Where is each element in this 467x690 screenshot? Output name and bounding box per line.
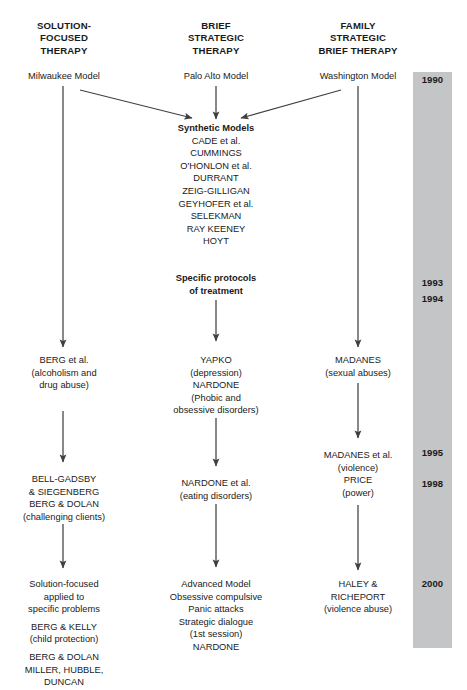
- node-solution-focused-applied: Solution-focused applied to specific pro…: [0, 578, 128, 689]
- madanes-line-0: MADANES: [335, 355, 381, 365]
- node-advanced-model: Advanced Model Obsessive compulsive Pani…: [136, 578, 296, 654]
- yapko-line-1: (depression): [190, 368, 242, 378]
- solutionapplied-g3-line-2: DUNCAN: [44, 677, 84, 687]
- header-line-2: FOCUSED: [40, 32, 88, 43]
- advanced-line-2: Panic attacks: [188, 604, 243, 614]
- arrow-milwaukee-to-synthetic: [80, 90, 192, 118]
- madanesprice-line-1: (violence): [338, 463, 378, 473]
- node-washington-model: Washington Model: [296, 70, 420, 83]
- berg-line-0: BERG et al.: [39, 355, 88, 365]
- spacer-2: [0, 646, 128, 651]
- bellgadsby-line-2: BERG & DOLAN: [29, 499, 99, 509]
- madanesprice-line-2: PRICE: [344, 475, 372, 485]
- column-header-solution-focused: SOLUTION- FOCUSED THERAPY: [0, 20, 128, 57]
- advanced-line-3: Strategic dialogue: [179, 617, 253, 627]
- node-nardone-eating-disorders: NARDONE et al. (eating disorders): [142, 477, 290, 502]
- solutionapplied-g1-line-0: Solution-focused: [29, 579, 98, 589]
- node-madanes-price: MADANES et al. (violence) PRICE (power): [294, 449, 422, 499]
- yapko-line-4: obsessive disorders): [173, 405, 258, 415]
- solutionapplied-g1-line-2: specific problems: [28, 604, 100, 614]
- bellgadsby-line-0: BELL-GADSBY: [32, 474, 97, 484]
- node-milwaukee-model: Milwaukee Model: [3, 70, 125, 83]
- nardone-eating-line-0: NARDONE et al.: [181, 478, 250, 488]
- yapko-line-3: (Phobic and: [191, 393, 241, 403]
- yapko-line-0: YAPKO: [200, 355, 231, 365]
- column-header-brief-strategic: BRIEF STRATEGIC THERAPY: [152, 20, 280, 57]
- protocols-line-1: Specific protocols: [176, 273, 257, 283]
- synthetic-author-6: SELEKMAN: [191, 211, 242, 221]
- solutionapplied-g3-line-1: MILLER, HUBBLE,: [25, 665, 104, 675]
- synthetic-author-3: DURRANT: [193, 173, 238, 183]
- header-line-3: BRIEF THERAPY: [318, 45, 397, 56]
- node-synthetic-models: Synthetic Models CADE et al. CUMMINGS O'…: [142, 122, 290, 248]
- nardone-eating-line-1: (eating disorders): [180, 491, 252, 501]
- protocols-line-2: of treatment: [189, 286, 243, 296]
- synthetic-author-4: ZEIG-GILLIGAN: [182, 186, 250, 196]
- header-line-2: STRATEGIC: [330, 32, 386, 43]
- advanced-line-4: (1st session): [190, 629, 243, 639]
- node-bell-gadsby: BELL-GADSBY & SIEGENBERG BERG & DOLAN (c…: [0, 473, 128, 523]
- synthetic-author-8: HOYT: [203, 236, 229, 246]
- haley-line-0: HALEY &: [338, 579, 377, 589]
- berg-line-2: drug abuse): [39, 380, 89, 390]
- solutionapplied-g1-line-1: applied to: [44, 592, 84, 602]
- header-line-1: SOLUTION-: [37, 20, 91, 31]
- solutionapplied-g2-line-1: (child protection): [30, 634, 99, 644]
- node-berg-et-al: BERG et al. (alcoholism and drug abuse): [0, 354, 128, 392]
- madanesprice-line-0: MADANES et al.: [324, 450, 393, 460]
- header-line-3: THERAPY: [193, 45, 240, 56]
- yapko-line-2: NARDONE: [193, 380, 240, 390]
- node-palo-alto-model: Palo Alto Model: [155, 70, 277, 83]
- solutionapplied-g3-line-0: BERG & DOLAN: [29, 652, 99, 662]
- synthetic-author-1: CUMMINGS: [190, 148, 242, 158]
- solutionapplied-g2-line-0: BERG & KELLY: [31, 622, 97, 632]
- synthetic-author-7: RAY KEENEY: [187, 224, 246, 234]
- advanced-line-1: Obsessive compulsive: [170, 592, 263, 602]
- haley-line-1: RICHEPORT: [331, 592, 386, 602]
- arrow-washington-to-synthetic: [241, 90, 341, 118]
- synthetic-author-5: GEYHOFER et al.: [179, 199, 254, 209]
- berg-line-1: (alcoholism and: [31, 368, 96, 378]
- bellgadsby-line-3: (challenging clients): [23, 512, 105, 522]
- diagram-canvas: 1990 1993 1994 1995 1998 2000 SOLUTION- …: [0, 0, 467, 690]
- node-yapko-nardone: YAPKO (depression) NARDONE (Phobic and o…: [136, 354, 296, 417]
- advanced-line-0: Advanced Model: [181, 579, 250, 589]
- synthetic-author-2: O'HONLON et al.: [180, 161, 252, 171]
- synthetic-models-title: Synthetic Models: [178, 123, 254, 133]
- bellgadsby-line-1: & SIEGENBERG: [29, 487, 99, 497]
- haley-line-2: (violence abuse): [324, 604, 392, 614]
- advanced-line-5: NARDONE: [193, 642, 240, 652]
- column-header-family-strategic: FAMILY STRATEGIC BRIEF THERAPY: [290, 20, 426, 57]
- synthetic-author-0: CADE et al.: [192, 136, 241, 146]
- node-haley-richeport: HALEY & RICHEPORT (violence abuse): [294, 578, 422, 616]
- header-line-2: STRATEGIC: [188, 32, 244, 43]
- timeline-year-1994: 1994: [413, 293, 452, 304]
- header-line-1: BRIEF: [201, 20, 231, 31]
- spacer-1: [0, 616, 128, 621]
- node-madanes: MADANES (sexual abuses): [296, 354, 420, 379]
- node-specific-protocols: Specific protocols of treatment: [146, 272, 286, 297]
- header-line-3: THERAPY: [41, 45, 88, 56]
- timeline-year-1993: 1993: [413, 277, 452, 288]
- madanes-line-1: (sexual abuses): [325, 368, 391, 378]
- header-line-1: FAMILY: [340, 20, 375, 31]
- madanesprice-line-3: (power): [342, 488, 374, 498]
